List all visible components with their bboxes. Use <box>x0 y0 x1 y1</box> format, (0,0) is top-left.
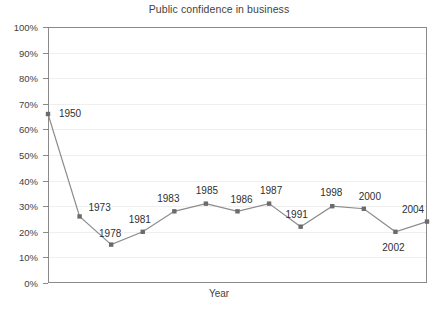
data-point-label: 1978 <box>99 227 121 238</box>
data-point-label: 1987 <box>260 184 282 195</box>
y-tick-label: 90% <box>19 47 38 58</box>
y-tick-label: 10% <box>19 252 38 263</box>
y-tick-label: 60% <box>19 124 38 135</box>
data-point-label: 1986 <box>230 194 252 205</box>
data-point-label: 1981 <box>129 213 151 224</box>
plot-area: 1950197319781981198319851986198719911998… <box>48 27 427 283</box>
x-axis-title: Year <box>0 288 438 299</box>
y-axis: 100%90%80%70%60%50%40%30%20%10%0% <box>0 0 48 310</box>
data-point-marker <box>330 204 334 208</box>
data-point-marker <box>109 242 113 246</box>
data-point-marker <box>204 201 208 205</box>
data-point-marker <box>235 209 239 213</box>
data-point-label: 1998 <box>320 187 342 198</box>
data-point-marker <box>267 201 271 205</box>
chart-title: Public confidence in business <box>0 3 438 15</box>
data-point-label: 1991 <box>286 208 308 219</box>
data-point-label: 1973 <box>88 202 110 213</box>
y-tick-mark <box>43 283 48 284</box>
series-polyline <box>48 114 427 245</box>
y-tick-label: 20% <box>19 226 38 237</box>
data-point-label: 1985 <box>196 184 218 195</box>
data-point-label: 2000 <box>359 190 381 201</box>
data-point-marker <box>298 224 302 228</box>
data-point-marker <box>77 214 81 218</box>
y-tick-label: 0% <box>24 278 38 289</box>
y-tick-label: 50% <box>19 150 38 161</box>
y-tick-label: 100% <box>14 22 38 33</box>
data-point-marker <box>362 207 366 211</box>
data-point-label: 1950 <box>59 108 81 119</box>
data-point-marker <box>46 112 50 116</box>
data-point-label: 2004 <box>402 203 424 214</box>
data-series-line <box>48 27 427 283</box>
chart-figure: Public confidence in business 100%90%80%… <box>0 0 438 310</box>
y-tick-label: 70% <box>19 98 38 109</box>
data-point-marker <box>172 209 176 213</box>
data-point-label: 1983 <box>157 193 179 204</box>
y-tick-label: 30% <box>19 201 38 212</box>
data-point-marker <box>141 230 145 234</box>
data-point-label: 2002 <box>382 241 404 252</box>
data-point-marker <box>393 230 397 234</box>
y-tick-label: 40% <box>19 175 38 186</box>
data-point-marker <box>425 219 429 223</box>
y-tick-label: 80% <box>19 73 38 84</box>
